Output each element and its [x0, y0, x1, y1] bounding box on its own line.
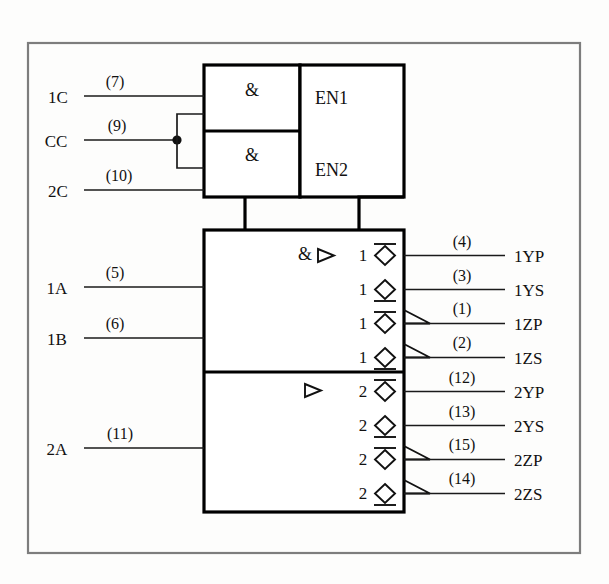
output-label-1zs: 1ZS	[514, 349, 542, 368]
pin-number-2yp: (12)	[449, 369, 476, 387]
pin-number-2ys: (13)	[449, 403, 476, 421]
enable-to-main-connector-right	[359, 197, 404, 230]
output-group-1zs: 1	[359, 348, 368, 367]
output-group-1zp: 1	[359, 314, 368, 333]
input-label-1b: 1B	[47, 330, 67, 349]
pin-number-1a: (5)	[106, 264, 125, 282]
input-label-1a: 1A	[47, 279, 69, 298]
wire-cc-to-gate2	[177, 140, 204, 168]
and-gate-1-symbol: &	[245, 80, 259, 100]
output-label-2zs: 2ZS	[514, 485, 542, 504]
pin-number-1zs: (2)	[453, 334, 472, 352]
pin-number-2zp: (15)	[449, 436, 476, 454]
pin-number-1zp: (1)	[453, 300, 472, 318]
output-group-1ys: 1	[359, 280, 368, 299]
input-label-1c: 1C	[48, 88, 68, 107]
output-label-2ys: 2YS	[514, 417, 544, 436]
wire-cc-to-gate1	[177, 114, 204, 140]
pin-number-1b: (6)	[106, 315, 125, 333]
pin-number-1c: (7)	[106, 73, 125, 91]
open-collector-marker-2zp	[404, 446, 430, 460]
logic-symbol-diagram: & & EN1 EN2 1C (7) CC (9) 2C (10) & 1A	[0, 0, 609, 584]
and-gate-2-symbol: &	[245, 145, 259, 165]
output-label-2yp: 2YP	[514, 383, 544, 402]
pin-number-2zs: (14)	[449, 470, 476, 488]
output-group-2yp: 2	[359, 382, 368, 401]
output-label-1yp: 1YP	[514, 247, 544, 266]
output-label-1zp: 1ZP	[514, 315, 542, 334]
pin-number-cc: (9)	[108, 117, 127, 135]
output-group-2ys: 2	[359, 416, 368, 435]
open-collector-marker-1zp	[404, 310, 430, 324]
en1-label: EN1	[315, 88, 348, 108]
pin-number-2c: (10)	[106, 167, 133, 185]
open-collector-marker-1zs	[404, 344, 430, 358]
output-label-2zp: 2ZP	[514, 451, 542, 470]
output-label-1ys: 1YS	[514, 281, 544, 300]
open-collector-marker-2zs	[404, 480, 430, 494]
upper-and-qualifier: &	[298, 244, 312, 264]
input-label-2a: 2A	[47, 440, 69, 459]
output-group-2zs: 2	[359, 484, 368, 503]
output-group-1yp: 1	[359, 246, 368, 265]
input-label-2c: 2C	[48, 182, 68, 201]
output-group-2zp: 2	[359, 450, 368, 469]
en2-label: EN2	[315, 160, 348, 180]
pin-number-1ys: (3)	[453, 267, 472, 285]
pin-number-1yp: (4)	[453, 233, 472, 251]
pin-number-2a: (11)	[107, 425, 133, 443]
input-label-cc: CC	[45, 132, 68, 151]
diagram-canvas: & & EN1 EN2 1C (7) CC (9) 2C (10) & 1A	[0, 0, 609, 584]
